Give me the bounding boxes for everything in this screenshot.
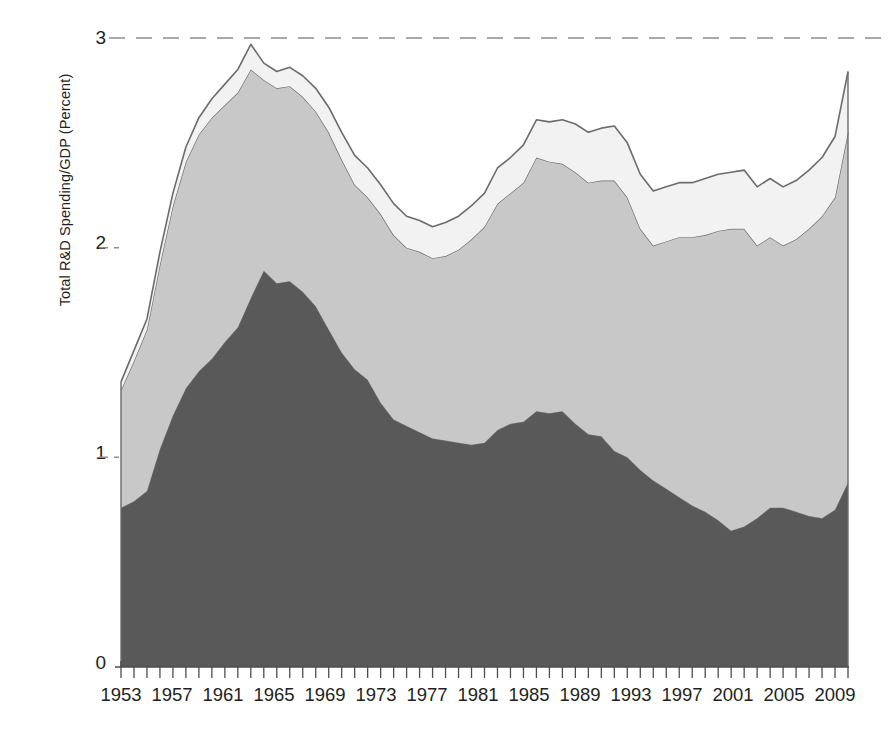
x-tick-label-1973: 1973	[355, 686, 396, 705]
x-tick-label-1989: 1989	[559, 686, 600, 705]
x-tick-label-1969: 1969	[304, 686, 345, 705]
x-tick-label-1981: 1981	[457, 686, 498, 705]
x-tick-label-1961: 1961	[202, 686, 243, 705]
x-tick-label-1997: 1997	[661, 686, 702, 705]
x-tick-label-1957: 1957	[151, 686, 192, 705]
x-tick-label-2005: 2005	[763, 686, 804, 705]
x-tick-label-2001: 2001	[712, 686, 753, 705]
x-tick-label-1977: 1977	[406, 686, 447, 705]
x-tick-label-1953: 1953	[100, 686, 141, 705]
x-tick-label-1965: 1965	[253, 686, 294, 705]
x-tick-label-2009: 2009	[814, 686, 855, 705]
stacked-area-plot	[0, 0, 891, 739]
x-tick-label-1993: 1993	[610, 686, 651, 705]
x-tick-label-1985: 1985	[508, 686, 549, 705]
chart-figure: Total R&D Spending/GDP (Percent) 3 2 1 0…	[0, 0, 891, 739]
